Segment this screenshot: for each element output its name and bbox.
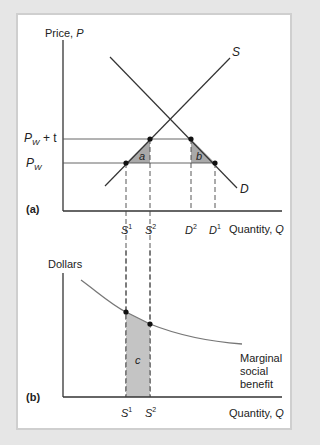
tick-b-s2: S2: [145, 406, 156, 419]
tick-d1-sup: 1: [217, 223, 221, 230]
tick-d1: D1: [209, 223, 221, 236]
msb-line-2: social: [240, 365, 282, 378]
tick-d2-sup: 2: [193, 223, 197, 230]
price-axis-text: Price,: [45, 27, 76, 39]
supply-label: S: [232, 46, 240, 58]
marginal-social-benefit-curve: [81, 280, 242, 344]
msb-line-3: benefit: [240, 378, 282, 391]
tick-s2-sup: 2: [152, 223, 156, 230]
point-d2: [188, 136, 193, 141]
quantity-b-text: Quantity,: [229, 407, 275, 419]
tick-b-s2-sup: 2: [152, 406, 156, 413]
msb-label: Marginal social benefit: [240, 352, 282, 391]
price-axis-label: Price, P: [45, 28, 84, 39]
tick-s2: S2: [145, 223, 156, 236]
price-world-p: P: [26, 156, 34, 170]
dollars-axis-label: Dollars: [48, 259, 82, 270]
demand-curve: [110, 57, 237, 188]
tick-b-s1-sup: 1: [128, 406, 132, 413]
area-b-triangle: [191, 139, 215, 163]
point-b-s2: [147, 321, 152, 326]
msb-line-1: Marginal: [240, 352, 282, 365]
price-tariff-sub: W: [32, 138, 40, 147]
area-a-label: a: [139, 151, 145, 162]
supply-curve: [105, 58, 230, 186]
quantity-a-var: Q: [275, 223, 284, 235]
price-axis-var: P: [76, 27, 83, 39]
panel-b-label: (b): [26, 392, 40, 403]
panel-a-label: (a): [26, 204, 39, 215]
quantity-b-var: Q: [275, 407, 284, 419]
area-b-label: b: [196, 151, 202, 162]
price-world-sub: W: [34, 163, 42, 172]
demand-label: D: [240, 183, 249, 195]
quantity-a-text: Quantity,: [229, 223, 275, 235]
price-tariff-p: P: [24, 131, 32, 145]
tick-s1: S1: [121, 223, 132, 236]
area-a-triangle: [126, 139, 150, 163]
tick-d1-base: D: [209, 224, 217, 236]
price-tariff-suffix: + t: [40, 131, 57, 145]
tick-d2: D2: [185, 223, 197, 236]
tick-d2-base: D: [185, 224, 193, 236]
quantity-axis-label-a: Quantity, Q: [229, 224, 284, 235]
point-s1: [123, 160, 128, 165]
price-tariff-label: PW + t: [24, 132, 57, 147]
tick-b-s1: S1: [121, 406, 132, 419]
price-world-label: PW: [26, 157, 42, 172]
point-s2: [147, 136, 152, 141]
tick-s1-sup: 1: [128, 223, 132, 230]
quantity-axis-label-b: Quantity, Q: [229, 408, 284, 419]
point-b-s1: [123, 309, 128, 314]
point-d1: [212, 160, 217, 165]
area-c-label: c: [135, 355, 141, 366]
